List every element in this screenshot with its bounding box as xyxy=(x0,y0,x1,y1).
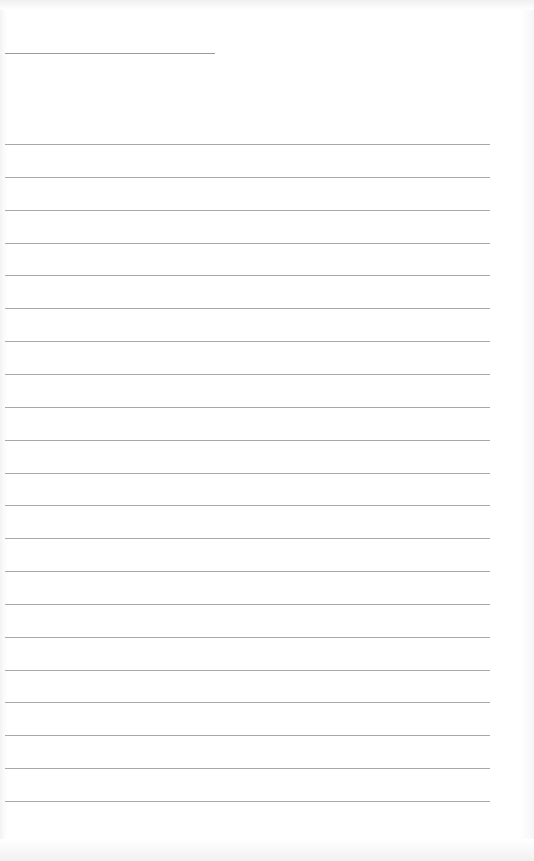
ruled-line xyxy=(5,637,490,638)
scan-edge-bottom xyxy=(0,839,534,861)
ruled-line xyxy=(5,571,490,572)
ruled-line xyxy=(5,177,490,178)
ruled-line xyxy=(5,670,490,671)
ruled-line xyxy=(5,210,490,211)
ruled-line xyxy=(5,538,490,539)
ruled-line xyxy=(5,243,490,244)
ruled-line xyxy=(5,473,490,474)
ruled-line xyxy=(5,801,490,802)
header-name-line xyxy=(5,53,215,54)
ruled-line xyxy=(5,505,490,506)
ruled-line xyxy=(5,440,490,441)
ruled-line xyxy=(5,341,490,342)
ruled-line xyxy=(5,407,490,408)
ruled-line xyxy=(5,275,490,276)
scan-edge-top xyxy=(0,0,534,10)
ruled-line xyxy=(5,374,490,375)
ruled-line xyxy=(5,144,490,145)
lined-paper-page xyxy=(0,0,534,861)
ruled-line xyxy=(5,768,490,769)
ruled-line xyxy=(5,604,490,605)
ruled-line xyxy=(5,702,490,703)
ruled-line xyxy=(5,735,490,736)
ruled-line xyxy=(5,308,490,309)
